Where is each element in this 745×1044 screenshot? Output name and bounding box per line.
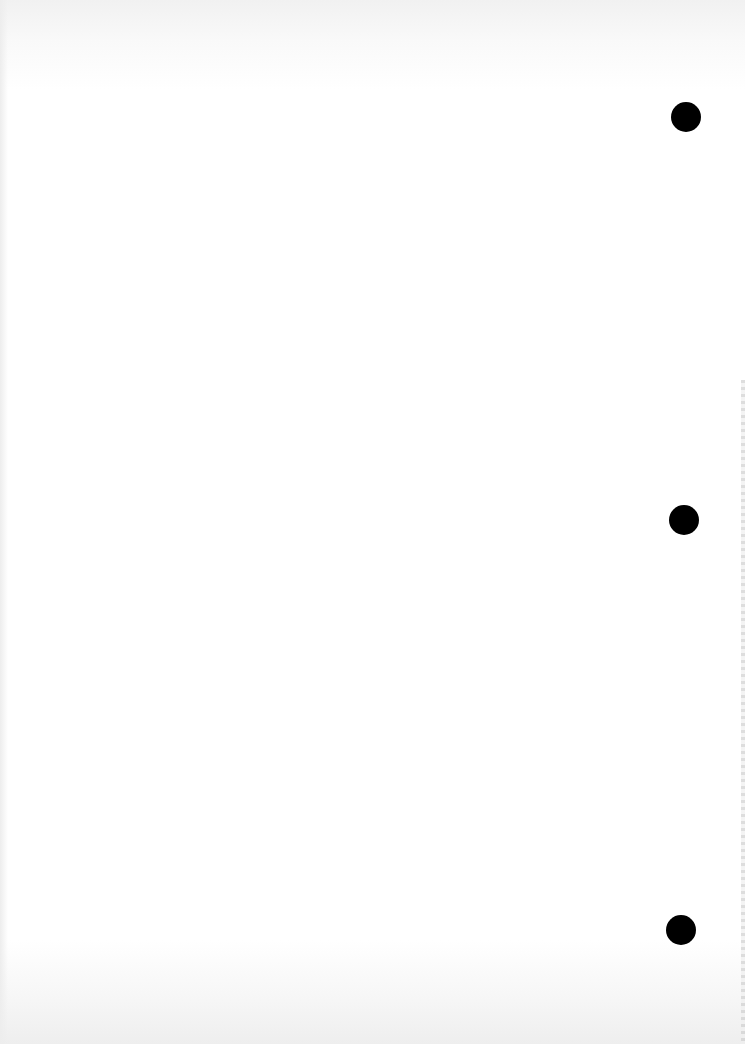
page-edge-shadow-right [741,380,745,1044]
punch-hole-middle [669,505,699,535]
punch-hole-bottom [666,915,696,945]
page-edge-shadow-left [0,0,8,1044]
punch-hole-top [671,102,701,132]
scanned-page [0,0,745,1044]
